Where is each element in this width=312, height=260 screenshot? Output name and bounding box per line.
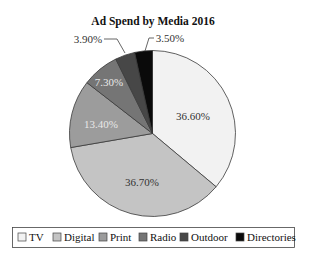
slice-label-print: 13.40%: [84, 118, 118, 130]
legend-item-radio: Radio: [139, 231, 177, 243]
legend-label: Radio: [150, 231, 177, 243]
legend-swatch-icon: [99, 233, 107, 241]
slice-label-directories: 3.50%: [156, 32, 184, 44]
legend-swatch-icon: [236, 233, 244, 241]
chart-title: Ad Spend by Media 2016: [91, 15, 215, 28]
legend-item-outdoor: Outdoor: [180, 231, 228, 243]
legend-item-tv: TV: [18, 231, 44, 243]
legend-swatch-icon: [18, 233, 26, 241]
slice-label-outdoor: 3.90%: [74, 33, 102, 45]
legend-label: Outdoor: [191, 231, 228, 243]
leader-line-directories: [145, 38, 154, 51]
legend-label: Directories: [247, 231, 296, 243]
pie-chart: Ad Spend by Media 2016 36.60%36.70%13.40…: [0, 0, 312, 260]
legend-swatch-icon: [180, 233, 188, 241]
legend-label: Digital: [64, 231, 95, 243]
slice-label-digital: 36.70%: [125, 176, 159, 188]
legend-label: Print: [110, 231, 131, 243]
slice-label-radio: 7.30%: [95, 76, 123, 88]
legend-label: TV: [29, 231, 44, 243]
legend: TVDigitalPrintRadioOutdoorDirectories: [13, 228, 296, 248]
legend-swatch-icon: [53, 233, 61, 241]
legend-swatch-icon: [139, 233, 147, 241]
leader-line-outdoor: [104, 39, 125, 53]
legend-item-digital: Digital: [53, 231, 95, 243]
slice-label-tv: 36.60%: [176, 110, 210, 122]
legend-item-print: Print: [99, 231, 131, 243]
